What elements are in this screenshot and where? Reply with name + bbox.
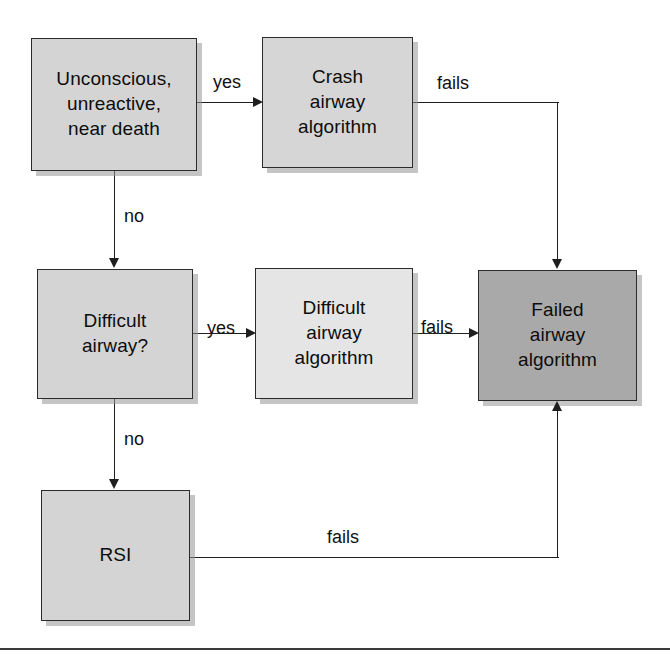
node-crash-airway-algorithm[interactable]: Crash airway algorithm <box>262 37 413 168</box>
edge-rsi-to-failed-horizontal <box>190 557 559 558</box>
node-failed-airway-algorithm-label: Failed airway algorithm <box>514 298 601 372</box>
node-crash-airway-algorithm-label: Crash airway algorithm <box>294 65 381 139</box>
node-unconscious-label: Unconscious, unreactive, near death <box>52 67 175 141</box>
edge-label-yes-crash: yes <box>213 72 241 93</box>
edge-label-fails-crash: fails <box>437 73 469 94</box>
edge-rsi-to-failed-arrowhead <box>552 401 562 411</box>
edge-difficult-question-to-rsi-arrowhead <box>109 479 119 489</box>
edge-label-yes-difficult: yes <box>207 318 235 339</box>
edge-difficult-algorithm-to-failed-arrowhead <box>469 328 479 338</box>
edge-unconscious-to-crash-line <box>197 102 253 103</box>
edge-label-no-to-rsi: no <box>124 429 144 450</box>
edge-crash-to-failed-arrowhead <box>552 259 562 269</box>
node-rsi-label: RSI <box>96 543 136 568</box>
edge-unconscious-to-crash-arrowhead <box>253 97 263 107</box>
edge-crash-to-failed-horizontal <box>413 102 559 103</box>
node-failed-airway-algorithm[interactable]: Failed airway algorithm <box>478 270 637 401</box>
edge-label-fails-difficult: fails <box>421 317 453 338</box>
edge-crash-to-failed-vertical <box>557 102 558 261</box>
edge-difficult-question-to-algorithm-arrowhead <box>246 328 256 338</box>
edge-rsi-to-failed-vertical <box>557 411 558 558</box>
node-difficult-airway-algorithm[interactable]: Difficult airway algorithm <box>255 268 413 399</box>
edge-label-fails-rsi: fails <box>327 527 359 548</box>
node-difficult-airway-algorithm-label: Difficult airway algorithm <box>290 296 377 370</box>
node-unconscious[interactable]: Unconscious, unreactive, near death <box>31 38 197 171</box>
edge-unconscious-to-difficult-question-arrowhead <box>109 258 119 268</box>
node-difficult-airway-question[interactable]: Difficult airway? <box>37 269 193 399</box>
footer-divider <box>0 648 670 650</box>
edge-unconscious-to-difficult-question-line <box>114 171 115 260</box>
edge-difficult-question-to-rsi-line <box>114 399 115 481</box>
flowchart-canvas: Unconscious, unreactive, near death Cras… <box>0 0 670 657</box>
node-difficult-airway-question-label: Difficult airway? <box>78 309 152 358</box>
node-rsi[interactable]: RSI <box>41 490 190 621</box>
edge-label-no-to-difficult: no <box>124 206 144 227</box>
